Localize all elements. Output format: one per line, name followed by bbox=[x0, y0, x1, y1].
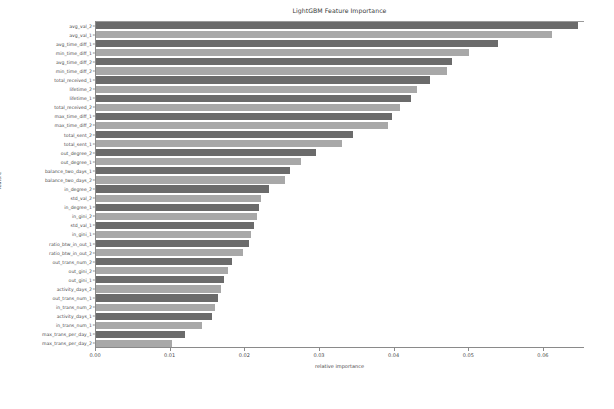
bar-row bbox=[96, 58, 585, 65]
x-tick-mark bbox=[170, 348, 171, 351]
y-tick-mark bbox=[93, 61, 95, 62]
y-tick-mark bbox=[93, 107, 95, 108]
y-tick-mark bbox=[93, 334, 95, 335]
y-axis-tick-label: in_gini_2 bbox=[72, 214, 92, 219]
bar-row bbox=[96, 122, 585, 129]
y-tick-mark bbox=[93, 270, 95, 271]
y-tick-mark bbox=[93, 52, 95, 53]
y-tick-mark bbox=[93, 225, 95, 226]
y-axis-tick-label: avg_val_2 bbox=[69, 23, 92, 28]
bar bbox=[96, 49, 469, 56]
y-axis-tick-label: min_time_diff_1 bbox=[56, 50, 92, 55]
y-tick-mark bbox=[93, 288, 95, 289]
bar bbox=[96, 331, 185, 338]
x-tick-mark bbox=[244, 348, 245, 351]
chart-title: LightGBM Feature Importance bbox=[95, 7, 584, 14]
bar-row bbox=[96, 185, 585, 192]
y-axis-tick-label: std_val_1 bbox=[71, 223, 92, 228]
y-tick-mark bbox=[93, 261, 95, 262]
x-tick-mark bbox=[543, 348, 544, 351]
y-axis-tick-label: out_gini_1 bbox=[69, 277, 92, 282]
y-axis-label-list: avg_val_2avg_val_1avg_time_diff_1min_tim… bbox=[0, 21, 92, 348]
bar bbox=[96, 249, 243, 256]
bar bbox=[96, 204, 259, 211]
x-axis-tick-label: 0.04 bbox=[388, 352, 399, 358]
bar bbox=[96, 213, 257, 220]
y-axis-tick-label: in_trans_num_2 bbox=[56, 305, 92, 310]
bar-row bbox=[96, 76, 585, 83]
bar-row bbox=[96, 222, 585, 229]
bar-row bbox=[96, 249, 585, 256]
y-tick-mark bbox=[93, 89, 95, 90]
bar-row bbox=[96, 340, 585, 347]
y-axis-tick-label: in_degree_1 bbox=[64, 205, 92, 210]
y-tick-mark bbox=[93, 189, 95, 190]
y-axis-tick-label: activity_days_1 bbox=[57, 314, 92, 319]
y-tick-mark bbox=[93, 161, 95, 162]
y-axis-tick-label: max_trans_per_day_2 bbox=[42, 341, 92, 346]
y-axis-tick-label: max_time_diff_2 bbox=[54, 123, 92, 128]
bar-row bbox=[96, 267, 585, 274]
bar bbox=[96, 40, 498, 47]
bar bbox=[96, 158, 301, 165]
y-axis-tick-label: total_received_1 bbox=[54, 78, 92, 83]
bar-row bbox=[96, 167, 585, 174]
y-axis-tick-label: out_trans_num_2 bbox=[53, 259, 92, 264]
y-tick-mark bbox=[93, 316, 95, 317]
y-axis-tick-label: activity_days_2 bbox=[57, 286, 92, 291]
bar-row bbox=[96, 176, 585, 183]
y-tick-mark bbox=[93, 307, 95, 308]
y-tick-mark bbox=[93, 234, 95, 235]
bar bbox=[96, 267, 228, 274]
bar-row bbox=[96, 140, 585, 147]
bar-row bbox=[96, 195, 585, 202]
bar bbox=[96, 294, 218, 301]
y-tick-mark bbox=[93, 143, 95, 144]
bar-row bbox=[96, 285, 585, 292]
bar-row bbox=[96, 231, 585, 238]
bar-row bbox=[96, 213, 585, 220]
y-axis-tick-label: balance_two_days_1 bbox=[45, 168, 92, 173]
bar bbox=[96, 185, 269, 192]
bar-row bbox=[96, 104, 585, 111]
lightgbm-feature-importance-chart: LightGBM Feature Importance avg_val_2avg… bbox=[0, 0, 614, 409]
bar-row bbox=[96, 31, 585, 38]
y-axis-tick-label: lifetime_2 bbox=[69, 87, 92, 92]
bar bbox=[96, 322, 202, 329]
bar-row bbox=[96, 86, 585, 93]
x-axis-tick-label: 0.00 bbox=[89, 352, 100, 358]
y-tick-mark bbox=[93, 80, 95, 81]
bar bbox=[96, 122, 388, 129]
bar bbox=[96, 58, 452, 65]
bar bbox=[96, 76, 430, 83]
y-axis-tick-label: lifetime_1 bbox=[69, 96, 92, 101]
bar-row bbox=[96, 149, 585, 156]
bar bbox=[96, 167, 290, 174]
y-axis-tick-label: out_gini_2 bbox=[69, 268, 92, 273]
bar bbox=[96, 86, 417, 93]
y-axis-tick-label: total_sent_2 bbox=[64, 132, 92, 137]
x-tick-mark bbox=[468, 348, 469, 351]
bar bbox=[96, 140, 342, 147]
bar bbox=[96, 67, 447, 74]
y-axis-tick-label: total_sent_1 bbox=[64, 141, 92, 146]
bar bbox=[96, 131, 353, 138]
bar bbox=[96, 313, 212, 320]
x-tick-mark bbox=[394, 348, 395, 351]
y-tick-mark bbox=[93, 207, 95, 208]
x-tick-mark bbox=[95, 348, 96, 351]
bar bbox=[96, 95, 411, 102]
bar-row bbox=[96, 67, 585, 74]
bar bbox=[96, 195, 261, 202]
bar-row bbox=[96, 304, 585, 311]
y-axis-tick-label: avg_time_diff_2 bbox=[56, 59, 92, 64]
bar-row bbox=[96, 131, 585, 138]
y-tick-mark bbox=[93, 279, 95, 280]
bar bbox=[96, 231, 251, 238]
bar-row bbox=[96, 322, 585, 329]
y-tick-mark bbox=[93, 70, 95, 71]
bar-row bbox=[96, 294, 585, 301]
bar-row bbox=[96, 22, 585, 29]
bar bbox=[96, 149, 316, 156]
bar-row bbox=[96, 113, 585, 120]
